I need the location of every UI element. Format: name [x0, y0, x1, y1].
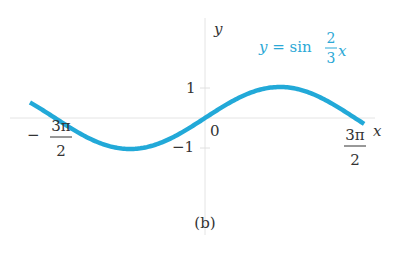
svg-text:2: 2: [350, 151, 360, 169]
equation-lhs: y = sin: [258, 38, 312, 56]
equation-variable: x: [338, 42, 347, 60]
svg-text:2: 2: [56, 142, 66, 160]
origin-label: 0: [210, 122, 220, 140]
sine-graph: y x y = sin 2 3 x 1 −1 0 − 3π 2 3π 2 (b): [0, 0, 409, 257]
equation-denominator: 3: [327, 50, 336, 66]
y-tick-label-neg-1: −1: [172, 138, 194, 156]
y-axis-label: y: [213, 20, 223, 38]
svg-text:3π: 3π: [51, 117, 71, 135]
svg-text:−: −: [27, 126, 40, 144]
equation-numerator: 2: [327, 30, 336, 46]
equation-label: y = sin 2 3 x: [258, 30, 347, 66]
x-axis-label: x: [373, 122, 382, 140]
x-tick-label-3pi-2: 3π 2: [344, 126, 366, 169]
y-tick-label-1: 1: [186, 79, 196, 97]
figure-caption: (b): [194, 214, 215, 232]
svg-text:3π: 3π: [345, 126, 365, 144]
x-tick-label-neg-3pi-2: − 3π 2: [27, 117, 72, 160]
